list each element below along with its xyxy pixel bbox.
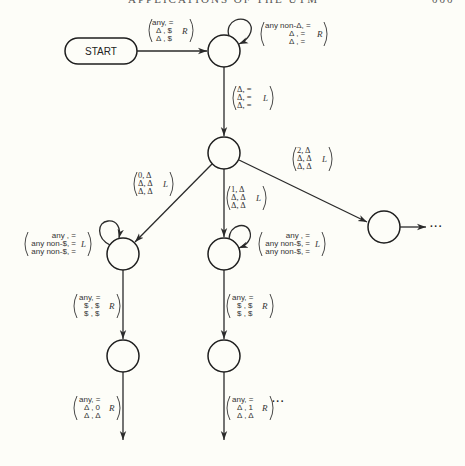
state-s7 — [208, 340, 240, 372]
start-label: START — [85, 46, 117, 57]
page-number: 000 — [432, 0, 455, 5]
svg-text:R: R — [108, 403, 115, 413]
label-s2-s5: 2, Δ Δ, Δ Δ, Δ L — [293, 145, 332, 171]
state-s1 — [208, 35, 240, 67]
page-header: APPLICATIONS OF THE UTM 000 — [128, 0, 455, 5]
state-s2 — [208, 137, 240, 169]
label-s2-s3: 0, Δ Δ, Δ Δ, Δ L — [134, 170, 173, 196]
svg-text:Δ , $: Δ , $ — [156, 34, 173, 43]
svg-text:L: L — [80, 239, 86, 249]
svg-text:any non-$, =: any non-$, = — [265, 247, 310, 256]
label-s1-s2: Δ, = Δ, = Δ, = L — [233, 84, 273, 110]
header-text: APPLICATIONS OF THE UTM — [128, 0, 319, 5]
svg-text:L: L — [262, 93, 268, 103]
svg-text:Δ , Δ: Δ , Δ — [84, 411, 101, 420]
svg-text:R: R — [261, 403, 268, 413]
svg-text:Δ , =: Δ , = — [289, 37, 306, 46]
label-s6-out: any, = Δ , 0 Δ , Δ R — [74, 395, 120, 420]
svg-text:L: L — [321, 154, 327, 164]
svg-text:R: R — [316, 29, 323, 39]
svg-text:L: L — [255, 193, 261, 203]
svg-text:L: L — [162, 179, 168, 189]
svg-text:R: R — [261, 301, 268, 311]
label-s4-s7: any, = $ , $ $ , $ R — [227, 293, 273, 318]
svg-text:any non-$, =: any non-$, = — [31, 247, 76, 256]
svg-text:Δ, Δ: Δ, Δ — [231, 200, 246, 210]
svg-text:$ , $: $ , $ — [84, 309, 100, 318]
svg-text:R: R — [181, 26, 188, 36]
continuation-dots-right: ··· — [430, 221, 443, 232]
state-s3 — [107, 238, 139, 270]
svg-text:Δ, Δ: Δ, Δ — [297, 161, 312, 171]
label-s3-s6: any, = $ , $ $ , $ R — [74, 293, 120, 318]
label-s4-loop: any , = any non-$, = any non-$, = L — [259, 231, 325, 256]
label-s7-out: any, = Δ , 1 Δ , Δ R — [227, 395, 273, 420]
start-node: START — [65, 38, 137, 64]
label-s1-loop: any non-Δ, = Δ , = Δ , = R — [261, 21, 327, 46]
svg-text:L: L — [314, 239, 320, 249]
svg-text:Δ, Δ: Δ, Δ — [138, 186, 153, 196]
svg-text:$ , $: $ , $ — [237, 309, 253, 318]
label-start-s1: any, = Δ , $ Δ , $ R — [149, 18, 193, 43]
label-s2-s4: 1, Δ Δ, Δ Δ, Δ L — [227, 184, 266, 210]
label-s3-loop: any , = any non-$, = any non-$, = L — [25, 231, 91, 256]
svg-text:Δ, =: Δ, = — [237, 100, 252, 110]
state-s5 — [368, 211, 400, 243]
state-s4 — [208, 238, 240, 270]
svg-text:R: R — [108, 301, 115, 311]
svg-text:Δ , Δ: Δ , Δ — [237, 411, 254, 420]
state-s6 — [107, 340, 139, 372]
continuation-dots-bottom: ··· — [272, 396, 285, 407]
tm-state-diagram: APPLICATIONS OF THE UTM 000 START ··· ··… — [0, 0, 465, 466]
